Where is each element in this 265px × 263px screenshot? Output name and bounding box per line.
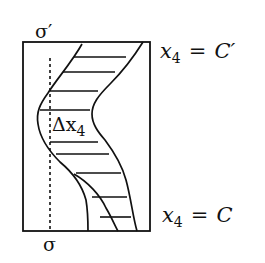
inner-boundary-curve — [74, 174, 118, 231]
sigma-prime-label: σ′ — [35, 20, 52, 42]
sigma-label: σ — [43, 233, 56, 255]
delta-x4-label: Δx4 — [52, 113, 85, 139]
hatch-lines — [40, 57, 131, 217]
right-boundary-curve — [92, 42, 143, 231]
spacetime-region-diagram: σ′ σ Δx4 x4=C′ x4=C — [0, 0, 265, 263]
top-equation: x4=C′ — [160, 39, 235, 66]
bottom-equation: x4=C — [162, 203, 232, 230]
